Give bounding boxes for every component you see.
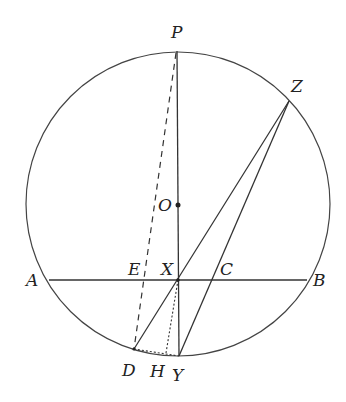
center-dot-O: [176, 203, 181, 208]
label-C: C: [220, 259, 233, 279]
label-O: O: [158, 195, 172, 215]
label-X: X: [159, 259, 174, 279]
label-H: H: [149, 361, 166, 381]
label-Y: Y: [172, 365, 185, 385]
label-A: A: [24, 270, 38, 290]
segment-DZ: [134, 101, 289, 349]
point-dot-X: [176, 278, 180, 282]
label-Z: Z: [290, 76, 304, 96]
segment-XH-dotted: [166, 280, 178, 353]
point-dot-D: [132, 347, 135, 350]
label-E: E: [127, 259, 141, 279]
geometry-diagram: P Z O A B E X C D H Y: [0, 0, 346, 402]
label-P: P: [170, 22, 183, 42]
label-B: B: [312, 270, 326, 290]
label-D: D: [121, 360, 136, 380]
segment-YZ: [179, 101, 289, 356]
